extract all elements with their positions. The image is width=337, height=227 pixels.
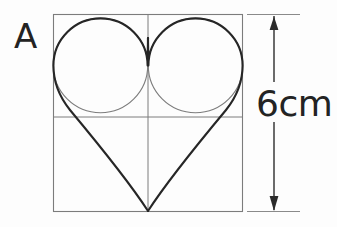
heart-outline-left (53, 18, 148, 211)
panel-label: A (14, 16, 37, 56)
heart-outline-right (148, 18, 243, 211)
heart-construction-diagram: A 6cm (0, 0, 337, 227)
dimension-label: 6cm (256, 83, 332, 124)
dimension-arrowhead-top (270, 17, 279, 31)
dimension-arrowhead-bottom (270, 196, 279, 211)
figure-container: A 6cm (0, 0, 337, 227)
